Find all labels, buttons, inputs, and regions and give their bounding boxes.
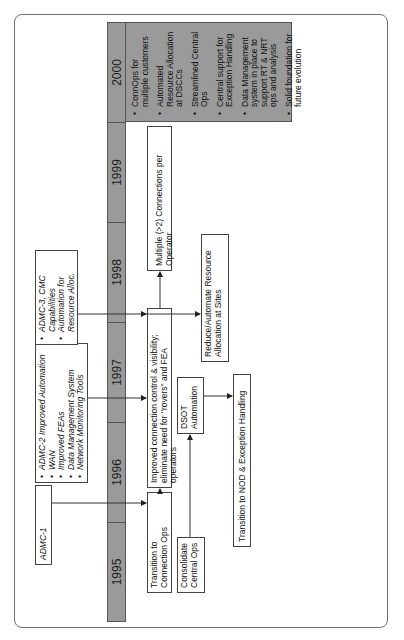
connector-arrows: [0, 0, 404, 640]
timeline-diagram: 1995 1996 1997 1998 1999 2000 ConnOps fo…: [0, 0, 404, 640]
